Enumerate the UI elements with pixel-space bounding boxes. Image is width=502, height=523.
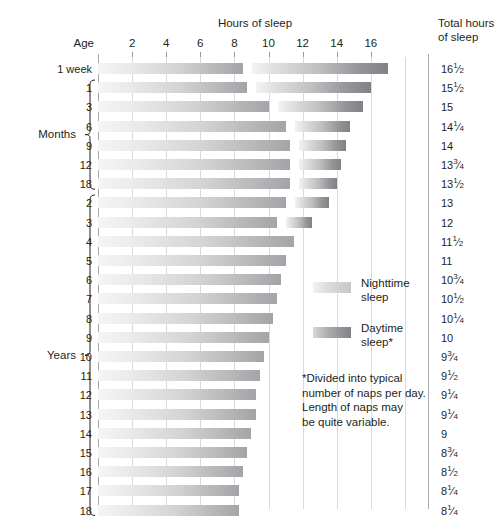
total-hours-value: 111⁄2 xyxy=(441,236,463,248)
brace-years-label: Years xyxy=(18,349,76,361)
bar-nighttime xyxy=(98,447,247,458)
bar-daytime xyxy=(278,101,363,112)
row-label-9: 9 xyxy=(30,140,92,152)
total-hours-value: 141⁄4 xyxy=(441,121,464,133)
total-hours-value: 83⁄4 xyxy=(441,447,458,459)
total-hours-value: 81⁄4 xyxy=(441,505,458,517)
row-label-6: 6 xyxy=(30,274,92,286)
x-tick-label-8: 8 xyxy=(223,37,245,49)
total-hours-value: 14 xyxy=(441,140,453,152)
bar-nighttime xyxy=(98,351,264,362)
legend-label-daytime: Daytime sleep* xyxy=(361,321,403,349)
bar-nighttime xyxy=(98,159,290,170)
bar-nighttime xyxy=(98,236,294,247)
row-label-8: 8 xyxy=(30,313,92,325)
bar-daytime xyxy=(295,197,329,208)
row-label-1: 1 xyxy=(30,82,92,94)
total-hours-value: 133⁄4 xyxy=(441,159,464,171)
total-hours-value: 151⁄2 xyxy=(441,82,464,94)
total-hours-value: 11 xyxy=(441,255,452,267)
bar-nighttime xyxy=(98,389,256,400)
legend-swatch-nighttime xyxy=(313,282,351,293)
bar-nighttime xyxy=(98,313,273,324)
row-label-16: 16 xyxy=(30,466,92,478)
bar-row: 914 xyxy=(0,137,502,158)
bar-nighttime xyxy=(98,121,286,132)
x-tick-label-4: 4 xyxy=(155,37,177,49)
bar-nighttime xyxy=(98,428,251,439)
bar-daytime xyxy=(295,121,350,132)
total-hours-value: 101⁄4 xyxy=(441,313,464,325)
row-label-17: 17 xyxy=(30,485,92,497)
row-label-9: 9 xyxy=(30,332,92,344)
x-tick-label-14: 14 xyxy=(326,37,348,49)
bar-row: 1583⁄4 xyxy=(0,444,502,465)
bar-daytime xyxy=(286,217,312,228)
total-hours-value: 161⁄2 xyxy=(441,63,464,75)
bar-row: 1781⁄4 xyxy=(0,482,502,503)
row-label-14: 14 xyxy=(30,428,92,440)
footnote-text: *Divided into typical number of naps per… xyxy=(302,371,437,429)
bar-nighttime xyxy=(98,63,243,74)
bar-daytime xyxy=(299,159,342,170)
bar-row: 18131⁄2 xyxy=(0,175,502,196)
bar-nighttime xyxy=(98,293,277,304)
row-label-13: 13 xyxy=(30,409,92,421)
row-label-12: 12 xyxy=(30,159,92,171)
bar-row: 12133⁄4 xyxy=(0,156,502,177)
bar-nighttime xyxy=(98,409,256,420)
row-label-2: 2 xyxy=(30,197,92,209)
total-hours-value: 93⁄4 xyxy=(441,351,458,363)
total-hours-value: 81⁄4 xyxy=(441,485,458,497)
row-label-4: 4 xyxy=(30,236,92,248)
bar-nighttime xyxy=(98,255,286,266)
row-label-3: 3 xyxy=(30,101,92,113)
bar-nighttime xyxy=(98,505,239,516)
bar-nighttime xyxy=(98,82,247,93)
x-tick-label-6: 6 xyxy=(189,37,211,49)
bar-row: 1881⁄4 xyxy=(0,502,502,523)
row-label-5: 5 xyxy=(30,255,92,267)
bar-daytime xyxy=(299,178,337,189)
x-tick-label-16: 16 xyxy=(360,37,382,49)
bar-nighttime xyxy=(98,178,290,189)
bar-nighttime xyxy=(98,332,269,343)
brace-months-label: Months xyxy=(18,128,76,140)
bar-nighttime xyxy=(98,197,286,208)
sleep-chart: Hours of sleep Age Total hours of sleep … xyxy=(0,0,502,523)
total-hours-value: 10 xyxy=(441,332,453,344)
row-label-11: 11 xyxy=(30,370,92,382)
row-label-1-week: 1 week xyxy=(30,63,92,75)
total-hours-value: 103⁄4 xyxy=(441,274,464,286)
total-hours-column-header: Total hours of sleep xyxy=(438,17,502,44)
brace-years xyxy=(84,194,98,518)
x-tick-label-10: 10 xyxy=(258,37,280,49)
total-hours-value: 91⁄2 xyxy=(441,370,458,382)
bar-nighttime xyxy=(98,485,239,496)
total-hours-value: 91⁄4 xyxy=(441,389,458,401)
bar-nighttime xyxy=(98,140,290,151)
total-hours-value: 12 xyxy=(441,217,453,229)
legend-label-nighttime: Nighttime sleep xyxy=(361,276,410,304)
bar-row: 7101⁄2 xyxy=(0,290,502,311)
total-hours-value: 81⁄2 xyxy=(441,466,458,478)
bar-row: 8101⁄4 xyxy=(0,310,502,331)
bar-row: 511 xyxy=(0,252,502,273)
bar-row: 1 week161⁄2 xyxy=(0,60,502,81)
bar-row: 312 xyxy=(0,214,502,235)
row-label-15: 15 xyxy=(30,447,92,459)
bar-nighttime xyxy=(98,217,277,228)
bar-daytime xyxy=(299,140,346,151)
total-hours-value: 9 xyxy=(441,428,447,440)
bar-row: 6103⁄4 xyxy=(0,271,502,292)
bar-row: 213 xyxy=(0,194,502,215)
total-hours-value: 101⁄2 xyxy=(441,293,464,305)
total-hours-value: 91⁄4 xyxy=(441,409,458,421)
bar-row: 315 xyxy=(0,98,502,119)
bar-nighttime xyxy=(98,101,269,112)
bar-nighttime xyxy=(98,274,281,285)
bar-row: 4111⁄2 xyxy=(0,233,502,254)
bar-daytime xyxy=(252,63,388,74)
row-label-18: 18 xyxy=(30,505,92,517)
row-label-12: 12 xyxy=(30,389,92,401)
